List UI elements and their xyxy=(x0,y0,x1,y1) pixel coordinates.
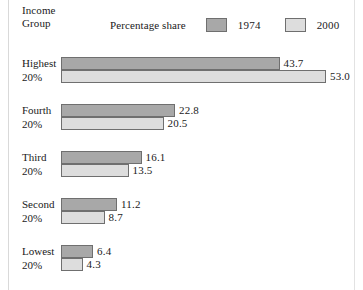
group-label-lowest-line1: Lowest xyxy=(22,245,54,257)
legend: Percentage share 1974 2000 xyxy=(110,18,363,32)
bar-group-highest: Highest 20% 43.7 53.0 xyxy=(0,56,363,103)
bar-third-2000 xyxy=(61,164,129,177)
legend-swatch-2000-icon xyxy=(285,18,306,32)
legend-item-1974: 1974 xyxy=(206,18,261,32)
legend-label-2000: 2000 xyxy=(317,19,340,31)
group-label-highest-line1: Highest xyxy=(22,57,56,69)
legend-swatch-1974-icon xyxy=(206,18,227,32)
bar-highest-1974 xyxy=(61,57,280,70)
bar-value-third-1974: 16.1 xyxy=(146,150,166,164)
group-label-second-line1: Second xyxy=(22,198,54,210)
bar-value-highest-2000: 53.0 xyxy=(330,69,350,83)
group-label-fourth-line1: Fourth xyxy=(22,104,51,116)
bar-value-highest-1974: 43.7 xyxy=(284,56,304,70)
bar-highest-2000 xyxy=(61,70,326,83)
bar-value-lowest-1974: 6.4 xyxy=(97,244,111,258)
bar-value-lowest-2000: 4.3 xyxy=(87,257,101,271)
bar-lowest-2000 xyxy=(61,258,83,271)
group-label-third-line1: Third xyxy=(22,151,46,163)
bar-value-third-2000: 13.5 xyxy=(133,163,153,177)
bar-group-second: Second 20% 11.2 8.7 xyxy=(0,197,363,244)
bar-third-1974 xyxy=(61,151,142,164)
bar-group-lowest: Lowest 20% 6.4 4.3 xyxy=(0,244,363,290)
bar-fourth-1974 xyxy=(61,104,175,117)
y-axis-title: Income Group xyxy=(22,4,56,30)
bar-group-third: Third 20% 16.1 13.5 xyxy=(0,150,363,197)
legend-label-1974: 1974 xyxy=(238,19,261,31)
legend-caption: Percentage share xyxy=(110,19,186,31)
income-share-bar-chart: Income Group Percentage share 1974 2000 … xyxy=(0,0,363,290)
bar-second-2000 xyxy=(61,211,105,224)
bar-group-fourth: Fourth 20% 22.8 20.5 xyxy=(0,103,363,150)
y-axis-title-line1: Income xyxy=(22,4,56,16)
y-axis-title-line2: Group xyxy=(22,17,51,29)
bar-value-second-2000: 8.7 xyxy=(109,210,123,224)
legend-item-2000: 2000 xyxy=(285,18,340,32)
bar-value-second-1974: 11.2 xyxy=(121,197,141,211)
bar-value-fourth-2000: 20.5 xyxy=(168,116,188,130)
bar-groups: Highest 20% 43.7 53.0 Fourth 20% xyxy=(0,56,363,290)
bar-fourth-2000 xyxy=(61,117,164,130)
bar-value-fourth-1974: 22.8 xyxy=(179,103,199,117)
